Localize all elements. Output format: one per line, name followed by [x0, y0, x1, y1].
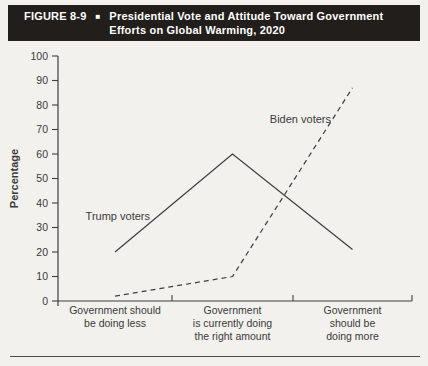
x-category-label: is currently doing [193, 317, 273, 329]
trump-voters-label: Trump voters [86, 210, 151, 222]
y-tick-label: 0 [42, 295, 48, 307]
x-category-label: the right amount [195, 330, 271, 342]
x-category-label: doing more [326, 330, 379, 342]
chart-area: 0102030405060708090100PercentageGovernme… [0, 45, 428, 350]
x-category-label: be doing less [84, 317, 146, 329]
figure-title: Presidential Vote and Attitude Toward Go… [109, 10, 383, 37]
y-tick-label: 70 [36, 123, 48, 135]
y-tick-label: 80 [36, 99, 48, 111]
x-category-label: Government [204, 304, 262, 316]
y-tick-label: 20 [36, 246, 48, 258]
figure-title-line-1: Presidential Vote and Attitude Toward Go… [109, 10, 383, 22]
y-axis-title: Percentage [8, 149, 20, 208]
x-category-label: Government should [69, 304, 161, 316]
x-category-label: Government [324, 304, 382, 316]
y-tick-label: 10 [36, 270, 48, 282]
x-category-label: should be [330, 317, 376, 329]
footer-rule [10, 356, 420, 357]
biden-voters-label: Biden voters [270, 113, 332, 125]
y-tick-label: 90 [36, 74, 48, 86]
trump-voters-line [115, 154, 353, 252]
figure-number-label: FIGURE 8-9 [24, 10, 87, 23]
y-tick-label: 60 [36, 148, 48, 160]
y-tick-label: 30 [36, 221, 48, 233]
figure-title-line-2: Efforts on Global Warming, 2020 [109, 24, 285, 36]
square-bullet-icon: ■ [96, 10, 101, 23]
figure-header: FIGURE 8-9 ■ Presidential Vote and Attit… [8, 5, 420, 41]
y-tick-label: 40 [36, 197, 48, 209]
y-tick-label: 100 [30, 50, 48, 62]
line-chart: 0102030405060708090100PercentageGovernme… [0, 45, 428, 350]
y-tick-label: 50 [36, 172, 48, 184]
